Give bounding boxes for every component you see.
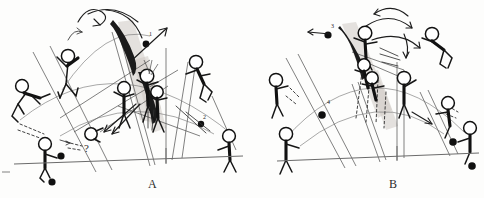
panel-a: 1 2 ? <box>12 10 243 192</box>
ground-line-b <box>277 153 479 161</box>
ball-3 <box>324 31 331 38</box>
ball-4-group-b: 4 <box>318 99 330 119</box>
ball-3-group-b: 3 <box>308 23 334 39</box>
stick-figure-a-1 <box>12 80 50 122</box>
ball-held-b <box>449 138 457 146</box>
ball-4 <box>318 111 326 119</box>
stick-figure-b-4 <box>422 27 452 68</box>
ground-line-a <box>14 156 243 164</box>
ball-held-a <box>57 152 64 159</box>
stick-figure-b-7 <box>279 127 299 174</box>
stick-figure-b-6 <box>269 73 288 118</box>
stick-figure-a-7 <box>85 128 103 142</box>
sketch-canvas: 1 2 ? <box>0 0 484 198</box>
stick-figure-a-9 <box>218 130 236 172</box>
figure-container: 1 2 ? <box>0 0 484 198</box>
stick-figure-a-8 <box>39 138 65 186</box>
ball-3-label: 3 <box>331 23 334 29</box>
panel-b-label: B <box>389 177 397 191</box>
ball-2-label: 2 <box>203 114 206 120</box>
ball-1 <box>143 41 150 48</box>
stick-figure-b-5 <box>397 71 416 118</box>
stick-figure-a-2 <box>57 49 78 98</box>
ball-ground-a <box>48 178 55 185</box>
question-mark-a: ? <box>84 142 89 154</box>
stick-figure-b-9 <box>449 122 476 170</box>
panel-b: 3 4 <box>269 8 479 191</box>
ball-ground-b <box>468 162 476 170</box>
stick-figure-a-6 <box>186 55 212 102</box>
loop-arrows-b <box>366 8 420 58</box>
ball-1-label: 1 <box>149 31 152 37</box>
ball-4-label: 4 <box>327 99 330 105</box>
panel-a-label: A <box>148 177 157 191</box>
